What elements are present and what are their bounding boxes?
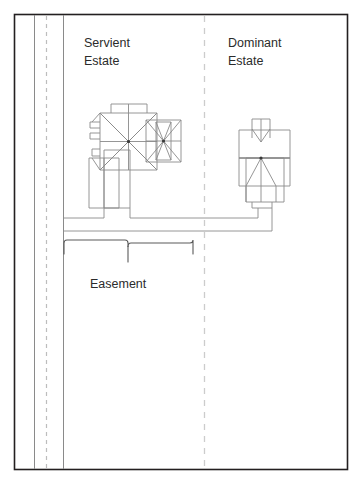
easement-label: Easement (90, 277, 147, 291)
dominant-estate-label-line2: Estate (228, 54, 263, 68)
servient-estate-label-line2: Estate (84, 54, 119, 68)
diagram-canvas: Servient Estate Dominant Estate Easement (0, 0, 364, 485)
servient-ridge-point-main (127, 140, 130, 143)
servient-estate-label-line1: Servient (84, 36, 130, 50)
easement-diagram: Servient Estate Dominant Estate Easement (0, 0, 364, 485)
dominant-ridge-point (259, 156, 262, 159)
servient-ridge-point-wing (162, 139, 165, 142)
dominant-estate-label-line1: Dominant (228, 36, 282, 50)
